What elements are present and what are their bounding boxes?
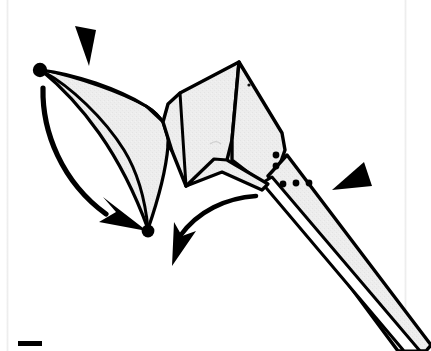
fold-dot [273, 163, 280, 170]
origami-diagram [0, 0, 431, 351]
diagram-page [0, 0, 431, 351]
pointer-wedge-top-icon [75, 26, 96, 66]
fold-dot [273, 152, 280, 159]
paper-speck [247, 83, 250, 86]
tail-sliver [262, 177, 420, 351]
vertex-dot-bottom [142, 225, 155, 238]
fold-dot [293, 180, 300, 187]
fold-arrow-center-shaft [180, 196, 256, 236]
fold-dot [280, 181, 287, 188]
pointer-wedge-right-icon [332, 162, 372, 190]
fold-dot [306, 180, 313, 187]
vertex-dot-left-point [33, 63, 47, 77]
page-corner-bar [18, 341, 42, 346]
left-wing-panel [41, 70, 168, 229]
fold-arrow-center [172, 196, 256, 266]
